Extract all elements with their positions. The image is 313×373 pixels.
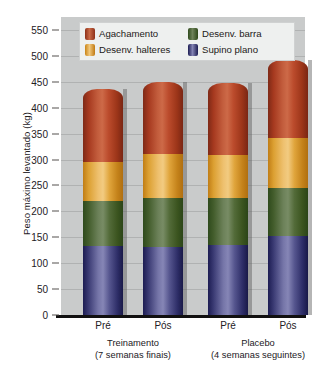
legend-label: Agachamento [99, 28, 158, 39]
red-swatch-icon [85, 28, 95, 40]
y-tick-mark [52, 159, 59, 160]
y-tick-mark [52, 237, 59, 238]
x-tick-label: Pós [258, 320, 313, 331]
legend-item-supino-plano: Supino plano [188, 42, 293, 58]
bar-shadow [308, 60, 312, 315]
legend-label: Desenv. barra [202, 28, 262, 39]
purple-swatch-icon [188, 44, 198, 56]
legend-item-desenv-halteres: Desenv. halteres [85, 42, 188, 58]
legend-item-desenv-barra: Desenv. barra [188, 26, 293, 42]
y-tick-mark [52, 133, 59, 134]
y-tick-label: 400 [4, 102, 48, 113]
y-tick-mark [52, 211, 59, 212]
green-swatch-icon [188, 28, 198, 40]
y-tick-mark [52, 289, 59, 290]
y-tick-label: 300 [4, 154, 48, 165]
x-tick-label: Pós [133, 320, 193, 331]
y-tick-mark [52, 29, 59, 30]
x-group-label: Placebo(4 semanas seguintes) [188, 338, 313, 361]
y-tick-label: 550 [4, 24, 48, 35]
x-group-label: Treinamento(7 semanas finais) [63, 338, 203, 361]
y-tick-label: 100 [4, 258, 48, 269]
y-tick-mark [52, 315, 59, 316]
y-tick-mark [52, 107, 59, 108]
x-group-name: Treinamento [63, 338, 203, 350]
orange-swatch-icon [85, 44, 95, 56]
y-tick-label: 200 [4, 206, 48, 217]
y-tick-mark [52, 185, 59, 186]
y-tick-label: 150 [4, 232, 48, 243]
y-tick-label: 350 [4, 128, 48, 139]
y-tick-label: 250 [4, 180, 48, 191]
y-tick-mark [52, 55, 59, 56]
legend-item-agachamento: Agachamento [85, 26, 188, 42]
y-tick-mark [52, 263, 59, 264]
x-group-name: Placebo [188, 338, 313, 350]
x-group-detail: (7 semanas finais) [63, 350, 203, 362]
y-tick-label: 50 [4, 284, 48, 295]
x-tick-label: Pré [198, 320, 258, 331]
chart-legend: Agachamento Desenv. barra Desenv. halter… [79, 22, 295, 61]
legend-label: Supino plano [202, 44, 258, 55]
legend-label: Desenv. halteres [99, 44, 170, 55]
axis-baseline-holder [61, 17, 305, 315]
x-group-detail: (4 semanas seguintes) [188, 350, 313, 362]
stacked-bar-chart: Peso máximo levantado (kg) Agachamento D… [0, 0, 313, 373]
y-tick-mark [52, 81, 59, 82]
x-axis-baseline [56, 315, 306, 318]
x-tick-label: Pré [73, 320, 133, 331]
y-tick-label: 450 [4, 76, 48, 87]
y-tick-label: 0 [4, 310, 48, 321]
y-tick-label: 500 [4, 50, 48, 61]
